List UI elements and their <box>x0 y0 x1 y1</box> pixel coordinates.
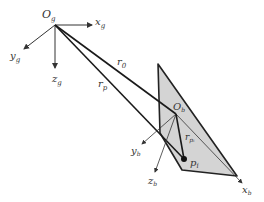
label-zg: zg <box>51 73 62 87</box>
frames-diagram: Og xg yg zg r0 rp Ob rpᵢ pi yb zb xb <box>0 0 264 202</box>
label-yb: yb <box>130 145 141 157</box>
label-yg: yg <box>9 50 21 64</box>
label-zb: zb <box>147 175 157 187</box>
yg-axis <box>24 25 55 49</box>
body-plane <box>158 64 237 176</box>
label-r0: r0 <box>117 56 127 70</box>
point-pi <box>181 156 187 162</box>
label-xb: xb <box>242 184 252 196</box>
ground-frame <box>24 25 92 68</box>
label-og: Og <box>42 8 56 23</box>
label-rp: rp <box>98 78 108 92</box>
label-xg: xg <box>95 16 106 30</box>
